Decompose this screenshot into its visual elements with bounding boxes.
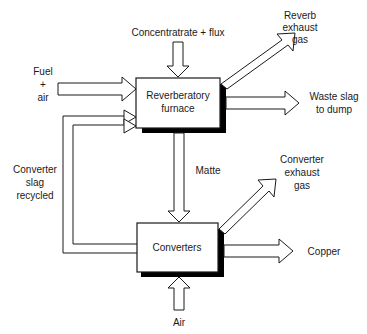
fuel-air-label-line1: Fuel: [33, 66, 52, 77]
concentrate-flux-arrow: [167, 42, 189, 77]
converter-exhaust-label-line2: exhaust: [284, 167, 319, 178]
converter-slag-label-line1: Converter: [13, 164, 58, 175]
matte-label: Matte: [195, 165, 220, 176]
reverb-exhaust-label-line1: Reverb: [284, 10, 317, 21]
converter-slag-label-line2: slag: [26, 177, 44, 188]
fuel-air-label-line2: +: [40, 79, 46, 90]
process-flow-diagram: Reverberatory furnace Converters Concent…: [0, 0, 367, 334]
copper-label: Copper: [308, 246, 341, 257]
copper-arrow: [224, 239, 293, 263]
reverb-exhaust-label-line3: gas: [292, 34, 308, 45]
reverb-exhaust-label-line2: exhaust: [282, 22, 317, 33]
waste-slag-label-line1: Waste slag: [309, 91, 358, 102]
concentrate-flux-label: Concentratrate + flux: [131, 27, 224, 38]
waste-slag-arrow: [226, 91, 299, 115]
flow-diagram-canvas: Reverberatory furnace Converters Concent…: [0, 0, 367, 334]
converter-exhaust-arrow: [219, 179, 276, 234]
converter-exhaust-label-line3: gas: [294, 180, 310, 191]
converter-exhaust-label-line1: Converter: [280, 154, 325, 165]
waste-slag-label-line2: to dump: [316, 104, 353, 115]
furnace-label-line1: Reverberatory: [146, 90, 209, 101]
furnace-label-line2: furnace: [161, 103, 195, 114]
converters-label: Converters: [153, 242, 202, 253]
fuel-air-arrow: [58, 77, 136, 101]
converter-slag-recycle-loop: [63, 110, 137, 253]
air-arrow: [168, 277, 190, 310]
matte-arrow: [168, 133, 190, 222]
reverb-exhaust-arrow: [221, 33, 295, 89]
converter-slag-label-line3: recycled: [16, 190, 53, 201]
fuel-air-label-line3: air: [37, 92, 49, 103]
air-label: Air: [173, 317, 186, 328]
